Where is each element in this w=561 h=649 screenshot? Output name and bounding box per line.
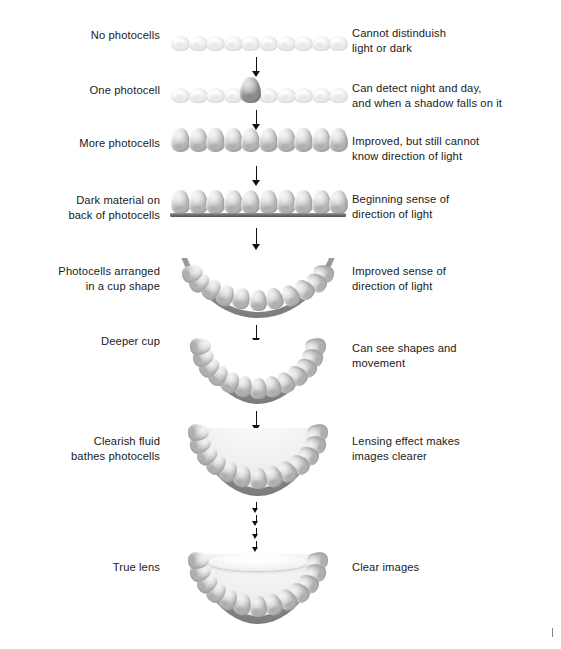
photocell-cone (277, 128, 296, 152)
photocell-flat (259, 36, 278, 51)
photocell-cone (259, 190, 278, 214)
label-line: and when a shadow falls on it (352, 96, 557, 111)
stage-label-left: More photocells (10, 136, 160, 151)
photocell-cone (312, 128, 331, 152)
label-line: Can detect night and day, (352, 81, 557, 96)
label-line: Deeper cup (10, 334, 160, 349)
photocell-flat (189, 88, 208, 103)
photocell-flat (312, 36, 331, 51)
photocell-flat (329, 88, 348, 103)
photocell-flat (277, 88, 296, 103)
label-line: light or dark (352, 41, 557, 56)
photocell-cone (294, 128, 313, 152)
photocell-flat (189, 36, 208, 51)
photocell-cone (189, 190, 208, 214)
stage-label-right: Can detect night and day, and when a sha… (352, 81, 557, 110)
stage-label-left: Deeper cup (10, 334, 160, 349)
label-line: More photocells (10, 136, 160, 151)
label-line: movement (352, 356, 557, 371)
photocell-flat (206, 88, 225, 103)
dark-backing-bar (170, 213, 346, 217)
label-line: Cannot distinduish (352, 26, 557, 41)
illustration-fluid-filled-cup (168, 428, 348, 498)
photocell-cone (277, 190, 296, 214)
photocell-cone (171, 190, 190, 214)
photocell-cone (241, 128, 260, 152)
label-line: images clearer (352, 449, 557, 464)
photocell-cone (171, 128, 190, 152)
photocell-flat (171, 36, 190, 51)
stage-label-right: Beginning sense of direction of light (352, 192, 557, 221)
label-line: direction of light (352, 279, 557, 294)
label-line: Photocells arranged (10, 264, 160, 279)
label-line: direction of light (352, 207, 557, 222)
photocell-active (240, 77, 261, 103)
stage-label-right: Can see shapes and movement (352, 341, 557, 370)
stage-label-right: Improved, but still cannot know directio… (352, 134, 557, 163)
illustration-shallow-cup (168, 258, 348, 320)
stage-label-left: Photocells arranged in a cup shape (10, 264, 160, 293)
photocell-flat (224, 36, 243, 51)
label-line: Lensing effect makes (352, 434, 557, 449)
photocell-cone (189, 128, 208, 152)
photocell-flat (329, 36, 348, 51)
photocell-cone (224, 128, 243, 152)
photocell-flat (206, 36, 225, 51)
illustration-cup-with-true-lens (168, 554, 348, 626)
label-line: bathes photocells (10, 449, 160, 464)
stage-label-right: Clear images (352, 560, 557, 575)
label-line: Clear images (352, 560, 557, 575)
photocell-flat (277, 36, 296, 51)
stage-label-right: Improved sense of direction of light (352, 264, 557, 293)
label-line: Beginning sense of (352, 192, 557, 207)
label-line: Improved, but still cannot (352, 134, 557, 149)
label-line: True lens (10, 560, 160, 575)
label-line: Dark material on (10, 193, 160, 208)
true-lens-disc (209, 554, 307, 571)
corner-tick-mark (552, 628, 553, 637)
label-line: Can see shapes and (352, 341, 557, 356)
illustration-deep-cup (168, 340, 348, 406)
photocell-cone (259, 128, 278, 152)
photocell-flat (294, 88, 313, 103)
photocell-cone (250, 290, 267, 311)
photocell-cone (329, 190, 348, 214)
photocell-cone (329, 128, 348, 152)
photocell-cone (250, 378, 267, 399)
stage-label-left: Dark material on back of photocells (10, 193, 160, 222)
label-line: in a cup shape (10, 279, 160, 294)
photocell-flat (171, 88, 190, 103)
photocell-flat (241, 36, 260, 51)
stage-label-left: Clearish fluid bathes photocells (10, 434, 160, 463)
photocell-cone (206, 128, 225, 152)
photocell-flat (312, 88, 331, 103)
label-line: know direction of light (352, 149, 557, 164)
label-line: Improved sense of (352, 264, 557, 279)
photocell-flat (294, 36, 313, 51)
stage-label-left: One photocell (10, 83, 160, 98)
photocell-cone (241, 190, 260, 214)
stage-label-right: Lensing effect makes images clearer (352, 434, 557, 463)
photocell-flat (259, 88, 278, 103)
label-line: back of photocells (10, 208, 160, 223)
photocell-cone (206, 190, 225, 214)
label-line: One photocell (10, 83, 160, 98)
photocell-cone (294, 190, 313, 214)
stage-label-left: No photocells (10, 28, 160, 43)
photocell-cone (312, 190, 331, 214)
label-line: Clearish fluid (10, 434, 160, 449)
label-line: No photocells (10, 28, 160, 43)
photocell-cone (250, 596, 267, 617)
photocell-cone (224, 190, 243, 214)
stage-label-left: True lens (10, 560, 160, 575)
photocell-cone (250, 468, 267, 489)
stage-label-right: Cannot distinduish light or dark (352, 26, 557, 55)
